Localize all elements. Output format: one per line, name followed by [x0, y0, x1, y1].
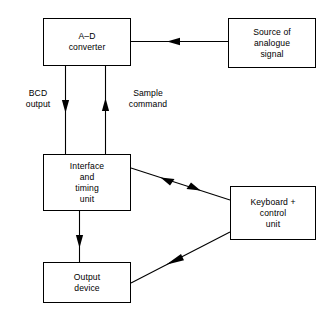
connector-keyboard-to-output-device — [131, 232, 230, 283]
interface-and-timing-unit-box-line-3: timing — [75, 183, 99, 194]
bcd-output-label: BCD output — [12, 88, 64, 110]
interface-and-timing-unit-box[interactable]: Interface and timing unit — [43, 154, 131, 211]
source-of-analogue-signal-box-line-1: Source of — [253, 27, 291, 38]
a-d-converter-box-line-2: converter — [69, 42, 106, 53]
keyboard-control-unit-box[interactable]: Keyboard + control unit — [230, 186, 316, 240]
a-d-converter-box[interactable]: A–D converter — [43, 18, 131, 66]
output-device-box-line-1: Output — [74, 272, 100, 283]
keyboard-control-unit-box-line-1: Keyboard + — [250, 197, 295, 208]
interface-and-timing-unit-box-line-2: and — [80, 172, 95, 183]
bcd-output-label-line-2: output — [12, 99, 64, 110]
source-of-analogue-signal-box-line-3: signal — [260, 49, 283, 60]
source-of-analogue-signal-box-line-2: analogue — [254, 38, 290, 49]
connector-interface-to-output-device — [76, 211, 83, 262]
connector-interface-to-adc-bcd-output — [62, 66, 69, 154]
keyboard-control-unit-box-line-2: control — [260, 208, 287, 219]
a-d-converter-box-line-1: A–D — [78, 31, 95, 42]
keyboard-control-unit-box-line-3: unit — [266, 219, 280, 230]
output-device-box[interactable]: Output device — [43, 262, 131, 303]
source-of-analogue-signal-box[interactable]: Source of analogue signal — [228, 18, 316, 68]
output-device-box-line-2: device — [74, 283, 99, 294]
connector-source-to-adc — [131, 38, 228, 45]
bcd-output-label-line-1: BCD — [12, 88, 64, 99]
sample-command-label: Sample command — [115, 88, 181, 110]
sample-command-label-line-2: command — [115, 99, 181, 110]
connector-interface-to-adc-sample-command — [102, 66, 109, 154]
interface-and-timing-unit-box-line-1: Interface — [70, 161, 104, 172]
block-diagram: A-D converter : horizontal line, leftwar… — [0, 0, 332, 319]
connector-interface-keyboard-bidirectional — [131, 168, 230, 200]
interface-and-timing-unit-box-line-4: unit — [80, 194, 94, 205]
sample-command-label-line-1: Sample — [115, 88, 181, 99]
